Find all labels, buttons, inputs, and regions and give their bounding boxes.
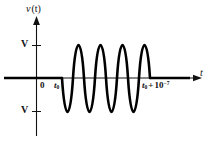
burst-end-exponent: −7 — [163, 80, 169, 86]
y-tick-label-positive-v: V — [21, 39, 28, 49]
y-axis-label-arg: (t) — [30, 3, 41, 14]
waveform-plot — [0, 0, 212, 144]
y-tick-label-negative-v: V — [21, 105, 28, 115]
y-axis-arrowhead — [33, 16, 40, 25]
burst-end-label: t0+10−7 — [142, 81, 169, 91]
burst-start-label: t0 — [54, 81, 59, 91]
origin-label: 0 — [40, 81, 45, 90]
x-axis-label: t — [200, 68, 203, 78]
waveform-figure: v(t) t V V 0 t0 t0+10−7 — [0, 0, 212, 144]
y-axis-label: v(t) — [26, 4, 42, 14]
burst-start-subscript: 0 — [57, 84, 60, 90]
